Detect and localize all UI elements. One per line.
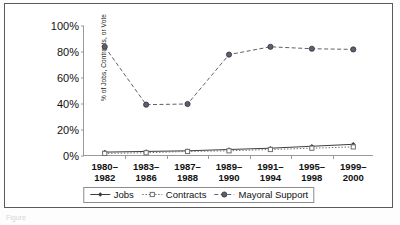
x-tick-label-line: 1988 — [174, 173, 200, 184]
data-point — [185, 149, 189, 153]
x-tick-label: 1999–2000 — [340, 162, 366, 183]
series-mayoral-support — [102, 44, 356, 107]
y-tick-label: 0% — [63, 150, 79, 162]
y-tick-label: 20% — [57, 124, 79, 136]
x-tick-label-line: 1986 — [133, 173, 159, 184]
x-tick-label-line: 1990 — [216, 173, 242, 184]
y-tick-label: 60% — [57, 72, 79, 84]
data-point — [309, 46, 314, 51]
x-tick-label-line: 1994 — [257, 173, 283, 184]
chart-legend: JobsContractsMayoral Support — [83, 187, 314, 203]
y-tick-label: 100% — [51, 20, 79, 32]
x-tick-label-line: 1991– — [257, 162, 283, 173]
legend-entry-contracts[interactable]: Contracts — [141, 189, 207, 200]
data-point — [227, 149, 231, 153]
plot-area: % of Jobs, Contracts, or Vote 0%20%40%60… — [83, 26, 373, 156]
y-tick-label: 80% — [57, 46, 79, 58]
x-tick-label-line: 1983– — [133, 162, 159, 173]
x-tick-label-line: 1980– — [91, 162, 117, 173]
legend-label: Jobs — [114, 189, 134, 200]
x-tick-label-line: 1987– — [174, 162, 200, 173]
x-tick-label-line: 1989– — [216, 162, 242, 173]
legend-entry-mayoral-support[interactable]: Mayoral Support — [214, 189, 309, 200]
x-tick-label-line: 1998 — [299, 173, 325, 184]
legend-swatch — [141, 190, 163, 199]
data-point — [268, 147, 272, 151]
data-point — [351, 47, 356, 52]
x-tick-label-line: 2000 — [340, 173, 366, 184]
data-point — [144, 151, 148, 155]
data-point — [351, 145, 355, 149]
data-point — [103, 151, 107, 155]
legend-label: Mayoral Support — [239, 189, 309, 200]
data-point — [102, 44, 107, 49]
x-tick-label: 1991–1994 — [257, 162, 283, 183]
x-tick-label-line: 1995– — [299, 162, 325, 173]
data-point — [226, 52, 231, 57]
x-tick-label: 1995–1998 — [299, 162, 325, 183]
x-tick-label: 1983–1986 — [133, 162, 159, 183]
x-tick-label: 1980–1982 — [91, 162, 117, 183]
series-plot — [84, 26, 374, 156]
data-point — [268, 44, 273, 49]
legend-swatch — [214, 190, 236, 199]
x-tick-label: 1987–1988 — [174, 162, 200, 183]
x-tick-label-line: 1982 — [91, 173, 117, 184]
legend-entry-jobs[interactable]: Jobs — [89, 189, 134, 200]
chart-frame: % of Jobs, Contracts, or Vote 0%20%40%60… — [4, 3, 393, 208]
y-tick-label: 40% — [57, 98, 79, 110]
data-point — [144, 102, 149, 107]
x-tick-label: 1989–1990 — [216, 162, 242, 183]
legend-label: Contracts — [166, 189, 207, 200]
data-point — [310, 146, 314, 150]
legend-swatch — [89, 190, 111, 199]
figure-container: % of Jobs, Contracts, or Vote 0%20%40%60… — [0, 0, 400, 225]
x-tick-label-line: 1999– — [340, 162, 366, 173]
bottom-crop-text: Figure — [6, 214, 26, 221]
data-point — [185, 101, 190, 106]
